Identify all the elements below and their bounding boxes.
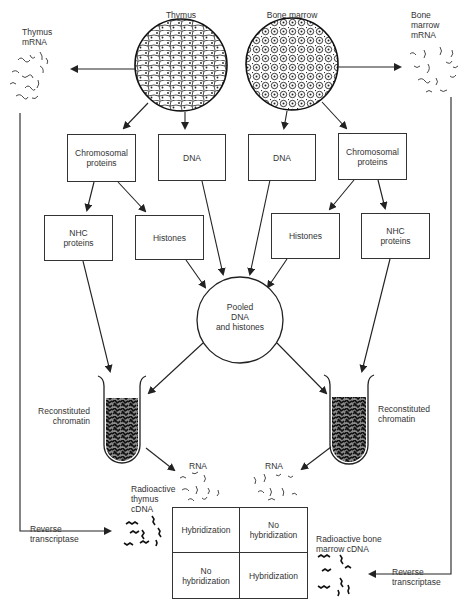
left-test-tube xyxy=(98,376,146,463)
left-rna-squiggles xyxy=(180,472,219,501)
thymus-label: Thymus xyxy=(156,10,206,20)
right-test-tube xyxy=(324,375,374,464)
diagram-canvas: Thymus Bone marrow Thymus mRNA Bone marr… xyxy=(0,0,472,605)
right-chromosomal-proteins-box: Chromosomalproteins xyxy=(338,133,407,180)
left-dna-box: DNA xyxy=(158,134,226,181)
thymus-cdna-label: Radioactive thymus cDNA xyxy=(131,484,175,514)
bone-marrow-mrna-label: Bone marrow mRNA xyxy=(411,10,439,40)
bone-marrow-cdna-label: Radioactive bone marrow cDNA xyxy=(316,534,382,554)
left-rna-label: RNA xyxy=(189,461,207,471)
grid-cell-bottom-left: Nohybridization xyxy=(173,553,240,598)
right-nhc-proteins-box: NHCproteins xyxy=(361,213,430,259)
pooled-dna-histones-label: Pooled DNA and histones xyxy=(195,302,285,332)
thymus-cdna-squiggles xyxy=(124,516,161,546)
grid-cell-bottom-right: Hybridization xyxy=(240,553,307,598)
right-histones-box: Histones xyxy=(271,213,340,259)
bone-marrow-mrna-squiggles xyxy=(410,47,458,92)
right-dna-box: DNA xyxy=(248,134,316,181)
right-reconstituted-chromatin-label: Reconstituted chromatin xyxy=(378,404,430,424)
left-reverse-transcriptase-label: Reverse transcriptase xyxy=(30,524,79,544)
bone-marrow-cell-sphere xyxy=(246,18,338,110)
thymus-mrna-label: Thymus mRNA xyxy=(22,27,52,47)
grid-cell-top-left: Hybridization xyxy=(173,508,240,553)
grid-cell-top-right: Nohybridization xyxy=(240,508,307,553)
thymus-cell-sphere xyxy=(135,19,227,111)
left-reconstituted-chromatin-label: Reconstituted chromatin xyxy=(20,406,90,426)
left-chromosomal-proteins-box: Chromosomalproteins xyxy=(67,134,136,182)
right-rna-squiggles xyxy=(254,474,297,500)
left-nhc-proteins-box: NHCproteins xyxy=(44,215,113,261)
hybridization-result-grid: Hybridization Nohybridization Nohybridiz… xyxy=(172,507,308,599)
right-rna-label: RNA xyxy=(265,461,283,471)
thymus-mrna-squiggles xyxy=(10,52,48,99)
right-reverse-transcriptase-label: Reverse transcriptase xyxy=(392,567,441,587)
bone-marrow-cdna-squiggles xyxy=(318,555,351,596)
left-histones-box: Histones xyxy=(135,215,204,260)
bone-marrow-label: Bone marrow xyxy=(262,10,322,20)
